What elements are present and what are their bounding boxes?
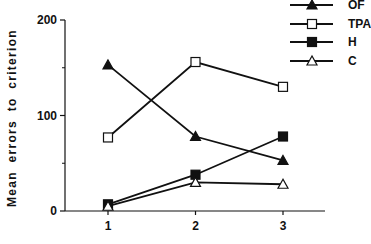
series-tpa — [104, 58, 288, 142]
y-tick-label: 100 — [37, 109, 57, 123]
legend-label: H — [348, 35, 357, 49]
x-tick-label: 3 — [280, 219, 287, 233]
series-c — [103, 177, 288, 210]
open-square-marker — [279, 82, 288, 91]
open-square-marker — [104, 133, 113, 142]
legend-item-h: H — [290, 35, 357, 49]
line-chart: 0100200123 OFTPAHC Mean errors to criter… — [0, 0, 371, 244]
open-square-marker — [191, 58, 200, 67]
filled-square-marker — [279, 132, 288, 141]
y-tick-label: 200 — [37, 13, 57, 27]
series-line — [108, 62, 283, 137]
open-square-marker — [308, 20, 317, 29]
y-tick-label: 0 — [50, 204, 57, 218]
axes: 0100200123 — [37, 13, 325, 233]
x-tick-label: 1 — [105, 219, 112, 233]
legend-item-tpa: TPA — [290, 17, 371, 31]
legend-label: OF — [348, 0, 365, 12]
x-tick-label: 2 — [192, 219, 199, 233]
legend-item-c: C — [290, 54, 357, 68]
filled-triangle-marker — [103, 60, 113, 69]
series-h — [104, 132, 288, 209]
filled-square-marker — [308, 38, 317, 47]
y-axis-title: Mean errors to criterion — [5, 29, 19, 207]
legend-label: C — [348, 54, 357, 68]
legend: OFTPAHC — [290, 0, 371, 68]
series-of — [103, 60, 288, 165]
series-group — [103, 58, 288, 211]
legend-item-of: OF — [290, 0, 365, 12]
legend-label: TPA — [348, 17, 371, 31]
